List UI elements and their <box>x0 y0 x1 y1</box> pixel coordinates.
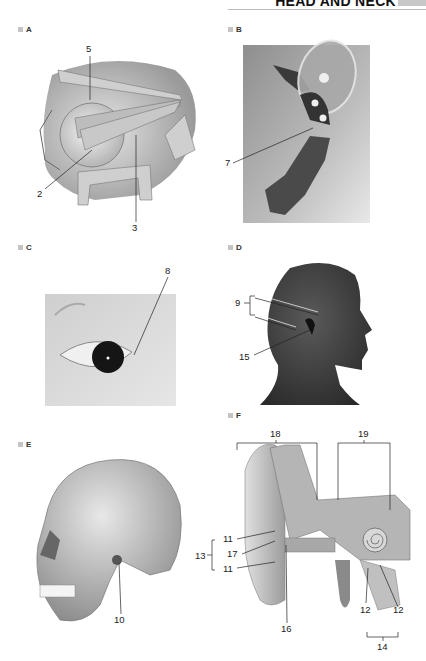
callout-19: 19 <box>358 428 369 439</box>
callout-15: 15 <box>239 351 250 362</box>
callout-18: 18 <box>270 428 281 439</box>
callout-5: 5 <box>86 43 91 54</box>
illustrations <box>0 0 426 661</box>
callout-10: 10 <box>114 614 125 625</box>
callout-11-upper: 11 <box>223 533 233 544</box>
callout-7: 7 <box>225 157 230 168</box>
figure-d-head-profile <box>260 263 372 405</box>
callout-9: 9 <box>235 297 240 308</box>
callout-8: 8 <box>165 265 170 276</box>
figure-f-ear-section <box>245 444 410 610</box>
callout-2: 2 <box>37 188 42 199</box>
callout-3: 3 <box>132 222 137 233</box>
callout-12-left: 12 <box>360 604 371 615</box>
callout-11-lower: 11 <box>223 563 233 574</box>
figure-a-orbit <box>40 61 196 205</box>
figure-b-cross-section <box>243 34 370 223</box>
callout-14: 14 <box>377 641 388 652</box>
figure-c-eye-photo <box>45 294 176 406</box>
callout-17: 17 <box>227 548 238 559</box>
callout-12-right: 12 <box>393 604 404 615</box>
callout-13: 13 <box>195 550 206 561</box>
callout-16: 16 <box>281 623 292 634</box>
figure-e-skull <box>37 460 181 621</box>
